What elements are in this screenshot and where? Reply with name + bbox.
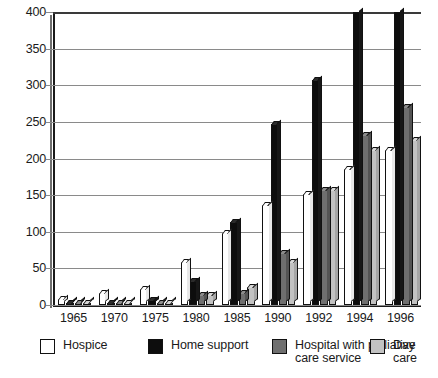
bar-group-1996 (385, 12, 418, 305)
legend-swatch-icon (370, 339, 385, 354)
x-tick-label-1980: 1980 (176, 312, 217, 325)
bar-side-face (269, 201, 273, 302)
bar-hospice-1975 (140, 289, 148, 305)
bar-hospice-1980 (181, 262, 189, 305)
bar-side-face (327, 186, 331, 302)
bar-home-support-1975 (148, 300, 156, 305)
bar-hospital-palliative-1970 (116, 303, 124, 306)
bar-side-face (417, 136, 421, 302)
bar-hospice-1985 (222, 233, 230, 305)
bar-side-face (294, 258, 298, 302)
bar-home-support-1970 (107, 303, 115, 306)
bar-hospital-palliative-1965 (75, 303, 83, 306)
bar-side-face (318, 76, 322, 302)
plot-area (53, 12, 421, 305)
legend-label: Day care (393, 339, 438, 365)
bar-hospice-1970 (99, 293, 107, 305)
x-axis-labels: 196519701975198019851990199219941996 (53, 309, 421, 329)
x-tick-label-1990: 1990 (257, 312, 298, 325)
bar-group-1985 (222, 12, 255, 305)
y-tick-label: 250 (26, 116, 46, 129)
y-tick-mark (46, 268, 53, 269)
legend-swatch-icon (272, 339, 287, 354)
x-tick-label-1996: 1996 (380, 312, 421, 325)
bar-group-1980 (181, 12, 214, 305)
y-tick-label: 400 (26, 6, 46, 19)
bar-day-care-1965 (83, 303, 91, 306)
legend-label: Home support (171, 339, 248, 352)
bar-hospice-1996 (385, 150, 393, 305)
y-tick-label: 350 (26, 43, 46, 56)
legend-swatch-icon (148, 339, 163, 354)
legend-swatch-icon (40, 339, 55, 354)
bar-side-face (368, 131, 372, 302)
bar-group-1970 (99, 12, 132, 305)
bar-side-face (228, 229, 232, 302)
bar-hospital-palliative-1975 (157, 303, 165, 306)
bar-side-face (286, 249, 290, 302)
bar-hospice-1965 (58, 299, 66, 305)
bar-side-face (196, 277, 200, 302)
x-tick-label-1965: 1965 (53, 312, 94, 325)
y-tick-mark (46, 49, 53, 50)
x-tick-label-1970: 1970 (94, 312, 135, 325)
bar-hospice-1992 (303, 194, 311, 305)
chart-legend: HospiceHome supportHospital with palliat… (0, 339, 438, 375)
y-tick-mark (46, 122, 53, 123)
x-tick-label-1975: 1975 (135, 312, 176, 325)
bar-side-face (237, 218, 241, 302)
bar-group-1975 (140, 12, 173, 305)
y-axis-shadow (50, 15, 52, 308)
bar-side-face (351, 165, 355, 302)
bar-side-face (335, 186, 339, 302)
bar-side-face (172, 297, 176, 302)
legend-label: Hospice (63, 339, 107, 352)
y-tick-label: 150 (26, 189, 46, 202)
bar-side-face (213, 291, 217, 302)
legend-home-support[interactable]: Home support (148, 339, 248, 354)
y-tick-label: 100 (26, 226, 46, 239)
bar-group-1994 (344, 12, 377, 305)
bar-side-face (187, 258, 191, 302)
gridline (53, 305, 421, 306)
bar-side-face (310, 190, 314, 302)
bar-side-face (254, 283, 258, 302)
bar-day-care-1970 (124, 303, 132, 306)
bar-hospice-1994 (344, 169, 352, 305)
x-tick-label-1985: 1985 (217, 312, 258, 325)
bar-group-1990 (262, 12, 295, 305)
bar-side-face (409, 103, 413, 302)
y-axis-labels: 050100150200250300350400 (0, 0, 46, 378)
x-tick-label-1994: 1994 (339, 312, 380, 325)
y-tick-label: 200 (26, 153, 46, 166)
bar-home-support-1965 (66, 303, 74, 306)
y-tick-mark (46, 12, 53, 13)
bar-side-face (359, 8, 363, 302)
bar-chart: 050100150200250300350400 196519701975198… (0, 0, 438, 378)
bar-side-face (376, 146, 380, 302)
bar-group-1965 (58, 12, 91, 305)
y-tick-label: 50 (32, 262, 46, 275)
bar-side-face (131, 297, 135, 302)
bar-day-care-1975 (165, 303, 173, 306)
x-tick-label-1992: 1992 (298, 312, 339, 325)
bar-side-face (277, 120, 281, 302)
y-tick-mark (46, 159, 53, 160)
bar-group-1992 (303, 12, 336, 305)
y-tick-mark (46, 195, 53, 196)
y-tick-mark (46, 85, 53, 86)
y-tick-label: 0 (39, 299, 46, 312)
bar-side-face (392, 146, 396, 302)
y-tick-mark (46, 305, 53, 306)
legend-day-care[interactable]: Day care (370, 339, 438, 365)
legend-hospice[interactable]: Hospice (40, 339, 107, 354)
bar-side-face (400, 8, 404, 302)
bar-hospice-1990 (262, 205, 270, 305)
bar-side-face (90, 297, 94, 302)
y-tick-mark (46, 232, 53, 233)
y-tick-label: 300 (26, 79, 46, 92)
